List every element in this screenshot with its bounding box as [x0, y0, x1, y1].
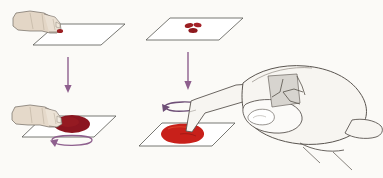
blood-drop-fingertip	[57, 29, 63, 33]
knuckle-shade-panel	[268, 74, 300, 107]
blood-drop-3	[188, 28, 197, 33]
figure-canvas: Blood smear preparation — four step illu…	[0, 0, 383, 178]
illustration-svg	[0, 0, 383, 178]
curled-finger	[248, 109, 274, 125]
